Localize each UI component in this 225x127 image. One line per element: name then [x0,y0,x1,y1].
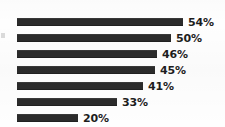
bar [17,114,78,122]
bar-chart: 54% 50% 46% 45% 41% [0,0,225,127]
bar-value-label: 50% [176,33,202,44]
bar-row: 54% [0,14,225,30]
bar [17,66,155,74]
bar-value-label: 45% [160,65,186,76]
bar-value-label: 20% [83,113,109,124]
bar-track: 50% [17,30,202,46]
bar [17,18,183,26]
bar-value-label: 46% [162,49,188,60]
bar-track: 33% [17,94,148,110]
bar-row: 20% [0,110,225,126]
chart-plot-area: 54% 50% 46% 45% 41% [0,0,225,127]
bar [17,34,171,42]
bar-track: 41% [17,78,174,94]
bar-row: 45% [0,62,225,78]
bar-row: 50% [0,30,225,46]
bar-row: 41% [0,78,225,94]
bar-row: 46% [0,46,225,62]
bar-track: 20% [17,110,109,126]
bar [17,82,143,90]
bar-value-label: 33% [122,97,148,108]
bar-value-label: 41% [148,81,174,92]
bar-track: 46% [17,46,188,62]
bar [17,50,157,58]
bar-row: 33% [0,94,225,110]
scan-edge-artifact [1,33,5,38]
bar-track: 54% [17,14,214,30]
bar [17,98,117,106]
bar-track: 45% [17,62,186,78]
bar-value-label: 54% [188,17,214,28]
